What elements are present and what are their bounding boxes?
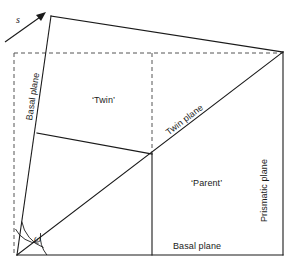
cell-top-edge-line	[51, 16, 283, 52]
omega-angle-arcs	[16, 222, 47, 255]
twin-region-label: ‘Twin’	[92, 96, 115, 105]
basal-plane-bottom-label: Basal plane	[173, 242, 221, 251]
basal-plane-left-edge-line	[17, 16, 51, 255]
shear-vector-label: s	[16, 15, 20, 25]
twinning-geometry-figure: s Basal plane ‘Twin’ Twin plane ‘Parent’…	[0, 0, 296, 268]
prismatic-plane-label: Prismatic plane	[260, 159, 269, 222]
cell-outline	[17, 16, 283, 255]
twin-lower-boundary-line	[37, 133, 152, 154]
shear-arrow-shaft	[5, 15, 43, 42]
shear-arrow-head	[36, 12, 46, 21]
shear-direction-arrow	[5, 12, 46, 42]
figure-linework	[0, 0, 296, 268]
internal-lines	[17, 52, 283, 255]
parent-region-label: ‘Parent’	[191, 179, 222, 188]
omega-angle-label: ω	[34, 234, 41, 244]
